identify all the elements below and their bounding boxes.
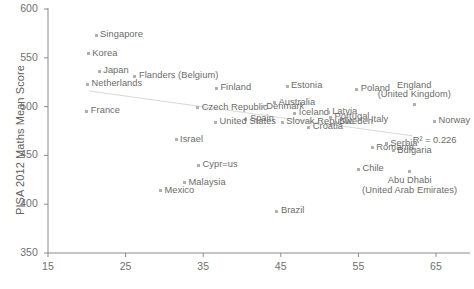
r-squared-annotation: R² = 0.226 — [413, 135, 457, 145]
y-tick-label: 450 — [6, 148, 38, 160]
data-point-label: France — [91, 106, 120, 116]
x-tick-label: 45 — [261, 260, 301, 272]
data-point-marker[interactable] — [197, 164, 200, 167]
data-point-marker[interactable] — [365, 119, 368, 122]
data-point-label: Italy — [371, 115, 388, 125]
data-point-label: Cypr=us — [203, 160, 238, 170]
data-point-label: Estonia — [291, 81, 322, 91]
data-point-label: Czech Republic — [202, 103, 268, 113]
data-point-label: Japan — [103, 66, 129, 76]
data-point-label: England (United Kingdom) — [366, 81, 462, 100]
data-point-label: Bulgaria — [397, 146, 432, 156]
data-point-marker[interactable] — [286, 85, 289, 88]
data-point-label: Finland — [220, 83, 251, 93]
data-point-marker[interactable] — [433, 120, 436, 123]
y-tick-label: 350 — [6, 246, 38, 258]
data-point-label: Brazil — [281, 206, 305, 216]
data-point-label: Mexico — [165, 186, 195, 196]
data-point-marker[interactable] — [408, 170, 411, 173]
data-point-marker[interactable] — [215, 87, 218, 90]
y-axis-title: PISA 2012 Maths Mean Score — [14, 65, 26, 215]
y-tick-label: 400 — [6, 197, 38, 209]
x-tick-label: 55 — [338, 260, 378, 272]
y-tick-label: 550 — [6, 51, 38, 63]
y-tick-label: 500 — [6, 100, 38, 112]
data-point-marker[interactable] — [86, 83, 89, 86]
x-tick-label: 25 — [106, 260, 146, 272]
data-point-marker[interactable] — [183, 181, 186, 184]
data-point-label: Netherlands — [92, 79, 143, 89]
x-tick-label: 15 — [28, 260, 68, 272]
data-point-label: Abu Dhabi (United Arab Emirates) — [355, 176, 465, 195]
data-point-marker[interactable] — [413, 103, 416, 106]
data-point-marker[interactable] — [327, 111, 330, 114]
data-point-label: Flanders (Belgium) — [139, 71, 218, 81]
data-point-label: Korea — [92, 49, 117, 59]
data-point-label: Israel — [180, 135, 203, 145]
data-point-label: Singapore — [100, 30, 143, 40]
data-point-marker[interactable] — [307, 126, 310, 129]
data-point-marker[interactable] — [371, 146, 374, 149]
pisa-scatter-chart: PISA 2012 Maths Mean Score 3504004505005… — [0, 0, 474, 289]
data-point-marker[interactable] — [214, 121, 217, 124]
data-point-marker[interactable] — [196, 106, 199, 109]
data-point-marker[interactable] — [133, 75, 136, 78]
data-point-marker[interactable] — [275, 210, 278, 213]
data-point-marker[interactable] — [98, 70, 101, 73]
data-point-marker[interactable] — [392, 149, 395, 152]
axes — [44, 8, 470, 257]
data-point-label: Croatia — [313, 122, 343, 132]
x-tick-label: 35 — [183, 260, 223, 272]
data-point-label: United States — [220, 117, 276, 127]
data-point-marker[interactable] — [261, 105, 264, 108]
data-point-label: Chile — [362, 164, 383, 174]
data-point-marker[interactable] — [87, 52, 90, 55]
data-point-marker[interactable] — [159, 189, 162, 192]
data-point-marker[interactable] — [281, 121, 284, 124]
data-point-marker[interactable] — [357, 168, 360, 171]
data-point-marker[interactable] — [293, 112, 296, 115]
data-point-marker[interactable] — [175, 138, 178, 141]
data-point-label: Norway — [438, 116, 470, 126]
y-tick-label: 600 — [6, 2, 38, 14]
data-point-marker[interactable] — [355, 88, 358, 91]
data-point-marker[interactable] — [95, 34, 98, 37]
data-point-marker[interactable] — [85, 110, 88, 113]
x-tick-label: 65 — [416, 260, 456, 272]
